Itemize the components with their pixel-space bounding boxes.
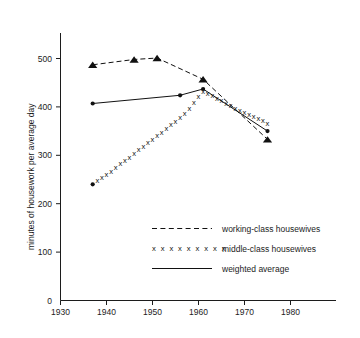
data-point-marker-x: x [132,149,136,158]
data-point-marker-x: x [141,142,145,151]
data-point-marker-x: x [100,173,104,182]
data-point-marker-x: x [201,87,205,96]
x-axis-ticks [61,301,291,306]
housework-line-chart: 500 400 300 200 100 0 1930 1940 1950 196… [0,0,360,338]
data-point-marker-x: x [252,112,256,121]
series-middle-class-housewives: xxxxxxxxxxxxxxxxxxxxxxxxxxxxxxxxxxxxxx [91,87,270,187]
x-tick-label: 1980 [281,307,300,317]
data-point-marker-x: x [183,109,187,118]
data-point-marker-x: x [220,96,224,105]
y-axis-title: minutes of housework per average day [26,103,36,250]
y-tick-label: 300 [38,150,52,160]
legend-label-middle-class: middle-class housewives [222,244,316,254]
data-point-marker-x: x [114,163,118,172]
data-point-marker-x: x [210,91,214,100]
data-point-marker-triangle [199,76,208,82]
x-tick-label: 1950 [143,307,162,317]
y-tick-label: 100 [38,247,52,257]
y-axis-ticks [56,59,61,253]
data-point-marker-x: x [197,92,201,101]
data-point-marker-x: x [206,89,210,98]
data-point-marker-dot [178,93,182,97]
data-point-marker-x: x [95,176,99,185]
legend-label-working-class: working-class housewives [221,224,320,234]
legend-label-weighted-average: weighted average [221,264,289,274]
data-point-marker-x: x [243,108,247,117]
y-tick-label: 500 [38,54,52,64]
data-point-marker-x: x [160,128,164,137]
data-point-marker-x: x [261,116,265,125]
data-point-marker-x: x [187,104,191,113]
data-point-marker-x: x [123,156,127,165]
y-tick-label: 400 [38,102,52,112]
legend-swatch-x-marks: x x x x x x x x x [152,244,227,253]
data-point-marker-x: x [229,101,233,110]
data-point-marker-triangle [263,136,272,142]
data-point-marker-x: x [238,106,242,115]
data-point-marker-dot [265,129,269,133]
data-point-marker-x: x [215,94,219,103]
series-working-class-housewives [88,55,272,143]
data-point-marker-x: x [164,124,168,133]
y-tick-label: 200 [38,199,52,209]
data-point-marker-x: x [192,98,196,107]
data-point-marker-x: x [155,131,159,140]
data-point-marker-x: x [256,114,260,123]
data-point-marker-dot [91,182,95,186]
data-point-marker-x: x [151,135,155,144]
y-tick-label: 0 [47,296,52,306]
data-point-marker-x: x [105,170,109,179]
data-point-marker-x: x [266,119,270,128]
data-point-marker-triangle [153,55,162,61]
x-tick-label: 1940 [97,307,116,317]
data-point-marker-x: x [137,145,141,154]
data-point-marker-x: x [233,104,237,113]
x-tick-label: 1970 [235,307,254,317]
data-point-marker-x: x [169,120,173,129]
data-point-marker-dot [91,101,95,105]
y-axis-tick-labels: 500 400 300 200 100 0 [38,54,52,306]
data-point-marker-x: x [128,153,132,162]
data-point-marker-x: x [178,113,182,122]
data-point-marker-x: x [109,167,113,176]
series-line [93,58,268,139]
chart-legend: working-class housewives x x x x x x x x… [152,224,320,274]
chart-container: 500 400 300 200 100 0 1930 1940 1950 196… [0,0,360,338]
data-point-marker-x: x [118,159,122,168]
x-tick-label: 1960 [189,307,208,317]
data-point-marker-x: x [224,99,228,108]
data-point-marker-x: x [247,110,251,119]
data-point-marker-x: x [174,117,178,126]
data-point-marker-x: x [146,138,150,147]
x-tick-label: 1930 [51,307,70,317]
x-axis-tick-labels: 1930 1940 1950 1960 1970 1980 [51,307,300,317]
